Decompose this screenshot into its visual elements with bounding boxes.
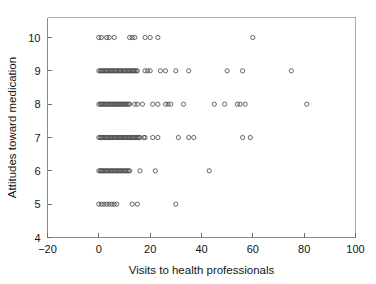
data-point-marker bbox=[115, 202, 119, 206]
data-point-marker bbox=[148, 35, 152, 39]
x-axis-tick-labels: −20020406080100 bbox=[38, 243, 365, 255]
y-tick-label: 9 bbox=[34, 65, 40, 77]
data-point-marker bbox=[187, 69, 191, 73]
data-point-marker bbox=[151, 135, 155, 139]
data-point-marker bbox=[138, 169, 142, 173]
data-point-marker bbox=[223, 102, 227, 106]
x-tick-label: 20 bbox=[144, 243, 156, 255]
data-point-marker bbox=[176, 135, 180, 139]
data-point-marker bbox=[174, 202, 178, 206]
plot-canvas: −20020406080100 45678910 Visits to healt… bbox=[0, 0, 376, 284]
data-point-marker bbox=[156, 135, 160, 139]
data-point-marker bbox=[156, 35, 160, 39]
data-point-marker bbox=[112, 35, 116, 39]
x-tick-label: 0 bbox=[96, 243, 102, 255]
y-tick-label: 10 bbox=[28, 32, 40, 44]
data-point-marker bbox=[169, 102, 173, 106]
y-tick-label: 6 bbox=[34, 165, 40, 177]
data-point-marker bbox=[289, 69, 293, 73]
x-tick-label: 60 bbox=[247, 243, 259, 255]
data-point-marker bbox=[143, 35, 147, 39]
data-point-markers bbox=[97, 35, 309, 206]
data-point-marker bbox=[240, 135, 244, 139]
data-point-marker bbox=[174, 69, 178, 73]
x-tick-label: 40 bbox=[195, 243, 207, 255]
data-point-marker bbox=[212, 102, 216, 106]
x-axis-title: Visits to health professionals bbox=[129, 264, 275, 276]
data-point-marker bbox=[163, 69, 167, 73]
data-point-marker bbox=[140, 102, 144, 106]
scatter-plot-figure: −20020406080100 45678910 Visits to healt… bbox=[0, 0, 376, 284]
data-point-marker bbox=[107, 35, 111, 39]
data-point-marker bbox=[133, 35, 137, 39]
data-point-marker bbox=[130, 202, 134, 206]
y-tick-label: 7 bbox=[34, 132, 40, 144]
y-axis-ticks bbox=[48, 38, 53, 238]
y-tick-label: 5 bbox=[34, 198, 40, 210]
data-point-marker bbox=[153, 169, 157, 173]
y-axis-title: Attitudes toward medication bbox=[6, 57, 18, 198]
data-point-marker bbox=[305, 102, 309, 106]
data-point-marker bbox=[135, 202, 139, 206]
data-point-marker bbox=[135, 102, 139, 106]
data-point-marker bbox=[243, 102, 247, 106]
data-point-marker bbox=[248, 135, 252, 139]
data-point-marker bbox=[238, 102, 242, 106]
data-point-marker bbox=[240, 69, 244, 73]
data-point-marker bbox=[181, 102, 185, 106]
data-point-marker bbox=[156, 102, 160, 106]
data-point-marker bbox=[192, 135, 196, 139]
x-tick-label: 80 bbox=[298, 243, 310, 255]
data-point-marker bbox=[151, 102, 155, 106]
y-axis-tick-labels: 45678910 bbox=[28, 32, 40, 244]
x-axis-ticks bbox=[48, 233, 356, 238]
x-tick-label: −20 bbox=[38, 243, 57, 255]
data-point-marker bbox=[148, 69, 152, 73]
data-point-marker bbox=[99, 35, 103, 39]
data-point-marker bbox=[251, 35, 255, 39]
data-point-marker bbox=[225, 69, 229, 73]
data-point-marker bbox=[158, 69, 162, 73]
data-point-marker bbox=[207, 169, 211, 173]
data-point-marker bbox=[187, 135, 191, 139]
plot-frame bbox=[48, 18, 356, 238]
y-tick-label: 4 bbox=[34, 232, 40, 244]
y-tick-label: 8 bbox=[34, 98, 40, 110]
x-tick-label: 100 bbox=[346, 243, 364, 255]
